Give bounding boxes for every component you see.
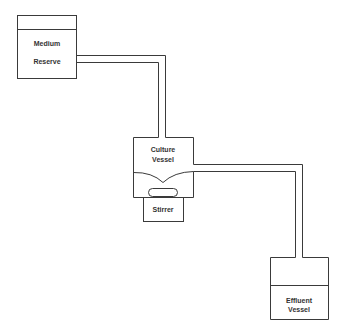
stirrer-label: Stirrer	[143, 206, 183, 213]
medium-reserve-box	[18, 16, 77, 79]
inflow-pipe	[77, 56, 166, 138]
outflow-pipe	[194, 165, 303, 258]
culture-vessel-label-1: Culture	[133, 146, 193, 153]
medium-reserve-label-2: Reserve	[17, 58, 77, 65]
medium-reserve-label-1: Medium	[17, 40, 77, 47]
effluent-vessel-label-1: Effluent	[270, 297, 328, 304]
effluent-vessel-label-2: Vessel	[270, 306, 328, 313]
culture-vessel-label-2: Vessel	[133, 156, 193, 163]
diagram-canvas: Medium Reserve Culture Vessel Stirrer Ef…	[0, 0, 346, 336]
diagram-lines	[0, 0, 346, 336]
stir-bar	[149, 189, 178, 197]
